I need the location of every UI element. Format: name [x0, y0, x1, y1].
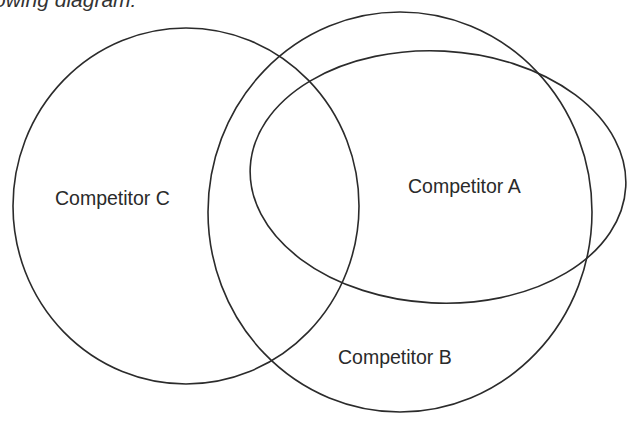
competitor-c-label: Competitor C — [55, 187, 170, 209]
venn-diagram: Competitor C Competitor B Competitor A — [0, 0, 639, 424]
set-competitor-c: Competitor C — [13, 28, 359, 384]
competitor-a-label: Competitor A — [408, 175, 521, 197]
set-competitor-a: Competitor A — [244, 41, 633, 312]
competitor-b-label: Competitor B — [338, 346, 452, 368]
